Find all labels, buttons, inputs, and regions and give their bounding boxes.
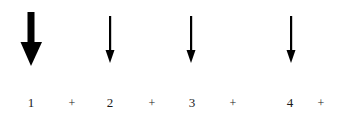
sequence-token-operator-4: + xyxy=(311,94,331,112)
sequence-token-operator-3: + xyxy=(223,94,243,112)
sequence-token-number-4: 4 xyxy=(280,94,300,112)
arrow-sequence-figure: 1 + 2 + 3 + 4 + xyxy=(0,0,349,122)
sequence-token-operator-2: + xyxy=(142,94,162,112)
sequence-token-operator-1: + xyxy=(62,94,82,112)
sequence-token-number-2: 2 xyxy=(100,94,120,112)
arrow-4-down-arrow-thin xyxy=(287,16,296,63)
arrow-3-down-arrow-thin xyxy=(187,16,196,63)
sequence-label-row: 1 + 2 + 3 + 4 + xyxy=(0,94,349,116)
sequence-token-number-1: 1 xyxy=(21,94,41,112)
arrow-2-down-arrow-thin xyxy=(106,16,115,63)
arrow-1-down-arrow-bold xyxy=(21,12,43,66)
sequence-token-number-3: 3 xyxy=(182,94,202,112)
